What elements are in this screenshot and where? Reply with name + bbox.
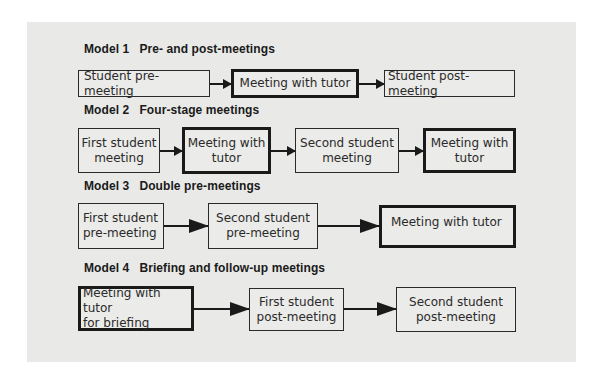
box-label: Second student post-meeting — [409, 295, 503, 325]
box-label: Meeting with tutor — [431, 136, 509, 166]
model-4-box-first-student-post-meeting: First student post-meeting — [249, 288, 344, 331]
model-4-number: Model 4 — [84, 261, 129, 275]
model-3-arrow-1 — [164, 225, 208, 227]
model-3-box-first-student-pre-meeting: First student pre-meeting — [78, 203, 164, 249]
model-1-name: Pre- and post-meetings — [139, 42, 275, 56]
model-3-box-meeting-with-tutor: Meeting with tutor — [379, 205, 516, 248]
model-4-arrow-1 — [194, 308, 249, 310]
model-1-title: Model 1Pre- and post-meetings — [84, 42, 275, 56]
model-1-number: Model 1 — [84, 42, 129, 56]
model-4-box-meeting-with-tutor-briefing: Meeting with tutor for briefing — [78, 286, 194, 331]
model-3-arrow-2 — [318, 225, 379, 227]
box-label: Meeting with tutor — [391, 215, 502, 230]
model-2-box-meeting-with-tutor-2: Meeting with tutor — [423, 128, 516, 173]
model-3-number: Model 3 — [84, 179, 129, 193]
model-4-arrow-2 — [344, 308, 396, 310]
model-2-title: Model 2Four-stage meetings — [84, 103, 259, 117]
box-label: Student pre-meeting — [84, 69, 207, 99]
box-label: First student post-meeting — [257, 295, 337, 325]
model-2-arrow-1 — [160, 150, 182, 152]
model-1-arrow-2 — [359, 83, 384, 85]
model-1-arrow-1 — [210, 83, 231, 85]
model-2-arrow-3 — [399, 150, 423, 152]
model-2-box-meeting-with-tutor-1: Meeting with tutor — [182, 127, 271, 174]
model-2-box-first-student-meeting: First student meeting — [78, 128, 160, 173]
model-3-box-second-student-pre-meeting: Second student pre-meeting — [208, 203, 318, 249]
model-2-box-second-student-meeting: Second student meeting — [295, 128, 399, 173]
model-3-title: Model 3Double pre-meetings — [84, 179, 261, 193]
model-1-box-student-post-meeting: Student post-meeting — [384, 70, 515, 97]
box-label: Meeting with tutor for briefing — [83, 286, 189, 331]
model-1-box-meeting-with-tutor: Meeting with tutor — [231, 69, 359, 98]
model-4-box-second-student-post-meeting: Second student post-meeting — [396, 287, 516, 332]
box-label: Meeting with tutor — [240, 76, 351, 91]
model-4-name: Briefing and follow-up meetings — [139, 261, 325, 275]
box-label: Student post-meeting — [388, 69, 512, 99]
box-label: Meeting with tutor — [188, 136, 266, 166]
model-4-title: Model 4Briefing and follow-up meetings — [84, 261, 325, 275]
model-2-arrow-2 — [271, 150, 295, 152]
model-2-name: Four-stage meetings — [139, 103, 259, 117]
box-label: Second student pre-meeting — [216, 211, 310, 241]
model-2-number: Model 2 — [84, 103, 129, 117]
box-label: First student pre-meeting — [83, 211, 158, 241]
model-1-box-student-pre-meeting: Student pre-meeting — [78, 70, 210, 97]
box-label: First student meeting — [82, 136, 157, 166]
box-label: Second student meeting — [300, 136, 394, 166]
model-3-name: Double pre-meetings — [139, 179, 260, 193]
